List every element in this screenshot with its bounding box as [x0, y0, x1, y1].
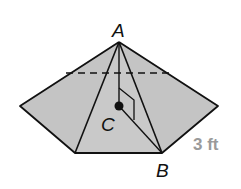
- pyramid-svg: A C B 3 ft: [0, 0, 241, 189]
- label-b: B: [156, 160, 169, 181]
- pyramid-diagram: A C B 3 ft: [0, 0, 241, 189]
- label-a: A: [111, 20, 125, 41]
- label-c: C: [101, 114, 115, 135]
- dimension-label: 3 ft: [193, 135, 219, 154]
- center-point-c: [115, 102, 124, 111]
